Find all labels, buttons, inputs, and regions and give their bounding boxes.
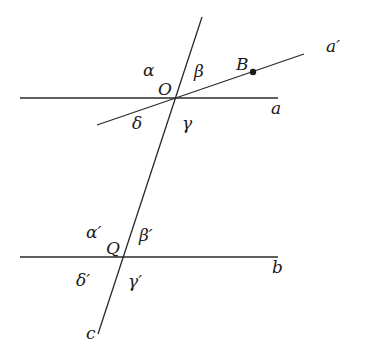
angle-label-beta-prime: β′ <box>139 227 153 244</box>
angle-label-beta: β <box>194 63 204 80</box>
diagram-lines <box>0 0 367 361</box>
line-label-c: c <box>86 325 96 342</box>
angle-label-alpha: α <box>143 62 154 79</box>
line-label-a_prime: a′ <box>326 38 340 55</box>
angle-label-alpha-prime: α′ <box>86 224 101 241</box>
angle-label-delta-prime: δ′ <box>76 272 90 289</box>
point-label-B: B <box>236 56 249 73</box>
point-label-O: O <box>158 81 172 98</box>
angle-label-delta: δ <box>132 115 142 132</box>
angle-label-gamma: γ <box>182 115 192 132</box>
point-label-Q: Q <box>106 240 120 257</box>
line-label-a: a <box>271 100 281 117</box>
line-label-b: b <box>272 259 283 276</box>
angle-label-gamma-prime: γ′ <box>128 273 142 290</box>
geometry-diagram: aa′bcOBQαβδγα′β′δ′γ′ <box>0 0 367 361</box>
point-B-dot <box>250 69 256 75</box>
